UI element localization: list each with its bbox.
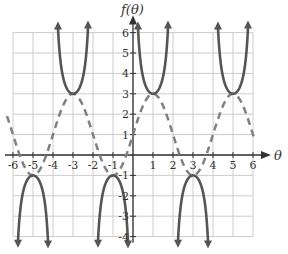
y-tick-label: 3 (122, 88, 129, 101)
x-tick-label: 4 (210, 159, 217, 172)
x-tick-label: -3 (68, 159, 79, 172)
x-tick-label: -2 (88, 159, 99, 172)
x-tick-label: -4 (48, 159, 59, 172)
x-tick-label: 2 (170, 159, 177, 172)
y-tick-label: -2 (118, 190, 129, 203)
x-tick-label: 1 (150, 159, 157, 172)
y-tick-label: 4 (122, 67, 129, 80)
y-tick-label: -3 (118, 210, 129, 223)
y-tick-label: 6 (122, 27, 129, 40)
x-tick-label: -6 (8, 159, 19, 172)
y-tick-label: 1 (122, 129, 129, 142)
x-tick-label: 5 (230, 159, 237, 172)
y-tick-label: 2 (122, 108, 129, 121)
chart: -6-5-4-3-2-1123456-4-3-2-1123456 f(θ) θ (0, 0, 288, 254)
y-tick-label: 5 (122, 47, 129, 60)
x-tick-label: -5 (28, 159, 39, 172)
y-tick-label: -4 (118, 231, 129, 244)
y-tick-label: -1 (118, 169, 129, 182)
y-axis-title: f(θ) (120, 2, 144, 17)
x-tick-label: -1 (108, 159, 119, 172)
x-tick-label: 3 (190, 159, 197, 172)
x-axis-title: θ (274, 148, 282, 163)
x-tick-label: 6 (250, 159, 257, 172)
